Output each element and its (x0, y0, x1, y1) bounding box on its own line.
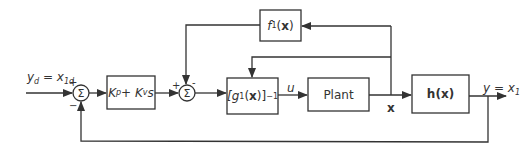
sum1-plus-sign: + (69, 78, 77, 88)
sum2-minus-sign: - (192, 78, 196, 88)
input-label: yd = x1d (27, 71, 74, 86)
g-inverse-block: [g1(x)]−1 (227, 78, 278, 114)
plant-block: Plant (308, 78, 369, 111)
h-block: h(x) (412, 75, 469, 113)
controller-block: Kp + Kvs (107, 76, 155, 109)
sum2-plus-sign: + (172, 81, 180, 91)
sum1-minus-sign: − (69, 101, 77, 111)
signal-x-label: x (387, 102, 395, 114)
f1-block: f1(x) (260, 10, 301, 41)
signal-u-label: u (287, 82, 295, 94)
output-label: y = x1 (483, 82, 520, 97)
